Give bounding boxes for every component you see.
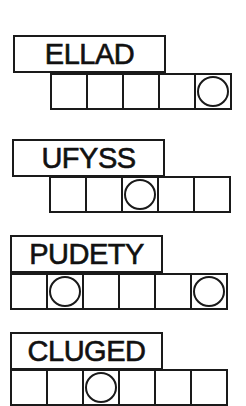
answer-cell-circled[interactable]	[190, 273, 228, 310]
scrambled-word: PUDETY	[10, 235, 163, 273]
answer-cell[interactable]	[10, 273, 48, 310]
scrambled-word: UFYSS	[12, 139, 165, 177]
circle-marker-icon	[193, 276, 225, 307]
answer-cell-circled[interactable]	[121, 176, 159, 213]
answer-cell-circled[interactable]	[46, 273, 84, 310]
circle-marker-icon	[49, 276, 81, 307]
answer-cell[interactable]	[122, 73, 160, 110]
answer-cell[interactable]	[86, 73, 124, 110]
answer-cell[interactable]	[85, 176, 123, 213]
answer-cell-circled[interactable]	[194, 73, 232, 110]
answer-cell-circled[interactable]	[82, 369, 120, 406]
answer-cell[interactable]	[118, 273, 156, 310]
circle-marker-icon	[197, 76, 229, 107]
answer-cell[interactable]	[50, 73, 88, 110]
answer-cell[interactable]	[118, 369, 156, 406]
circle-marker-icon	[85, 372, 117, 403]
answer-cell[interactable]	[49, 176, 87, 213]
answer-cell[interactable]	[46, 369, 84, 406]
answer-cells	[10, 369, 228, 406]
circle-marker-icon	[124, 179, 156, 210]
scrambled-word: ELLAD	[13, 35, 166, 73]
answer-cells	[49, 176, 231, 213]
answer-cell[interactable]	[154, 369, 192, 406]
answer-cell[interactable]	[193, 176, 231, 213]
answer-cell[interactable]	[10, 369, 48, 406]
answer-cell[interactable]	[154, 273, 192, 310]
answer-cell[interactable]	[158, 73, 196, 110]
scrambled-word: CLUGED	[10, 332, 163, 370]
answer-cells	[50, 73, 232, 110]
answer-cell[interactable]	[82, 273, 120, 310]
answer-cells	[10, 273, 228, 310]
answer-cell[interactable]	[157, 176, 195, 213]
answer-cell[interactable]	[190, 369, 228, 406]
